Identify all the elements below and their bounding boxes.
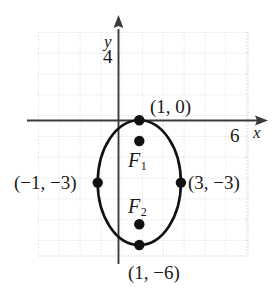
point-left-vertex xyxy=(93,177,103,187)
label-left-vertex: (−1, −3) xyxy=(14,173,77,192)
x-axis-label: x xyxy=(253,124,261,141)
label-bottom-vertex: (1, −6) xyxy=(128,263,180,282)
label-focus-1-letter: F xyxy=(128,149,140,171)
point-focus-1 xyxy=(134,136,144,146)
y-axis-arrowhead xyxy=(114,15,124,28)
label-focus-1-subscript: 1 xyxy=(140,159,147,173)
label-focus-2-letter: F xyxy=(128,195,140,217)
point-bottom-vertex xyxy=(134,240,144,250)
label-right-vertex: (3, −3) xyxy=(188,173,240,192)
y-axis-tick-4: 4 xyxy=(103,47,113,66)
point-top-vertex xyxy=(134,115,144,125)
coordinate-plane-svg xyxy=(0,0,276,292)
label-focus-1: F1 xyxy=(128,150,147,172)
ellipse-graph-figure: y 4 6 x (1, 0) (1, −6) (−1, −3) (3, −3) … xyxy=(0,0,276,292)
point-right-vertex xyxy=(176,177,186,187)
x-axis-tick-6: 6 xyxy=(230,126,240,145)
label-focus-2-subscript: 2 xyxy=(140,205,147,219)
label-focus-2: F2 xyxy=(128,196,147,218)
point-focus-2 xyxy=(134,219,144,229)
label-top-vertex: (1, 0) xyxy=(150,97,191,116)
